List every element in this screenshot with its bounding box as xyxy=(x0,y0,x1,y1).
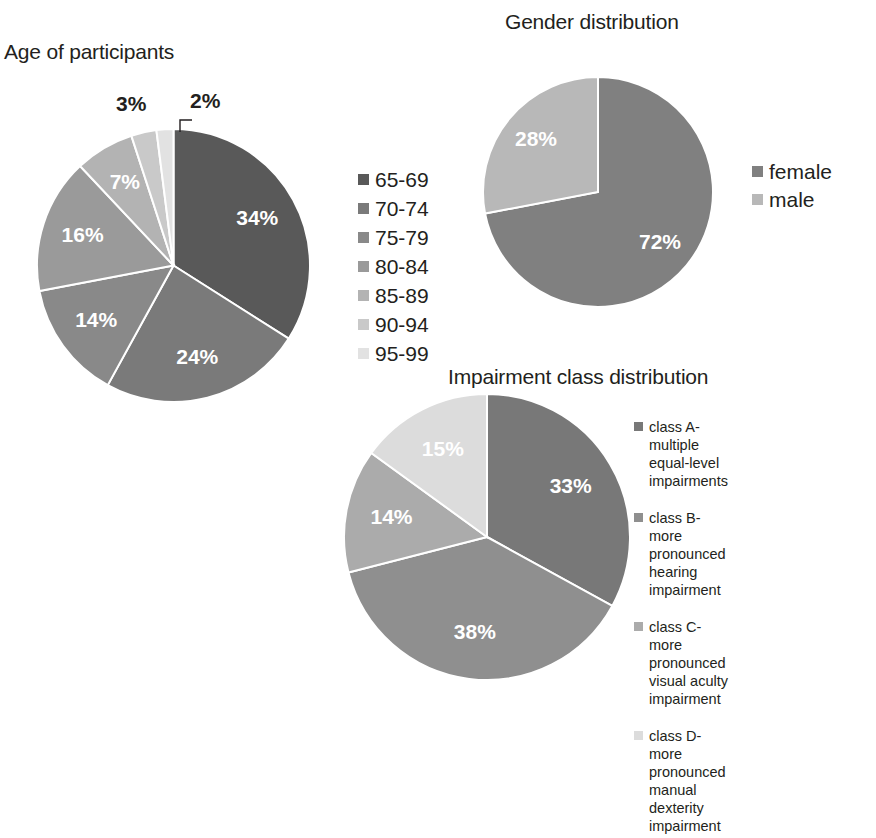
legend-item-label: 75-79 xyxy=(375,226,429,250)
legend-item-label: class C-more pronounced visual aculty im… xyxy=(649,618,728,708)
legend-swatch-icon xyxy=(358,174,369,185)
impairment-legend-item[interactable]: class D-more pronounced manual dexterity… xyxy=(634,727,728,835)
pie-slice-label: 15% xyxy=(422,437,464,460)
impairment-legend-item[interactable]: class A-multiple equal-level impairments xyxy=(634,418,728,490)
pie-slice-label: 14% xyxy=(370,505,412,528)
legend-swatch-icon xyxy=(634,513,643,522)
pie-slice-label: 16% xyxy=(62,223,104,246)
age-chart-title: Age of participants xyxy=(4,40,174,64)
impairment-legend: class A-multiple equal-level impairments… xyxy=(634,418,728,838)
age-pie: 34%24%14%16%7% xyxy=(36,128,311,403)
gender-pie: 72%28% xyxy=(482,76,714,308)
age-slice-label-90-94: 3% xyxy=(116,92,146,116)
legend-item-label: 95-99 xyxy=(375,342,429,366)
age-legend-item[interactable]: 95-99 xyxy=(358,342,429,366)
legend-swatch-icon xyxy=(358,261,369,272)
age-legend-item[interactable]: 80-84 xyxy=(358,255,429,279)
legend-item-label: 90-94 xyxy=(375,313,429,337)
legend-item-label: 65-69 xyxy=(375,168,429,192)
pie-slice-label: 72% xyxy=(639,230,681,253)
gender-legend: femalemale xyxy=(752,160,832,216)
legend-item-label: class A-multiple equal-level impairments xyxy=(649,418,728,490)
age-legend-item[interactable]: 75-79 xyxy=(358,226,429,250)
legend-swatch-icon xyxy=(752,166,763,177)
legend-item-label: class B-more pronounced hearing impairme… xyxy=(649,509,728,599)
pie-slice-label: 33% xyxy=(550,474,592,497)
legend-item-label: 80-84 xyxy=(375,255,429,279)
legend-swatch-icon xyxy=(634,622,643,631)
legend-item-label: 85-89 xyxy=(375,284,429,308)
legend-swatch-icon xyxy=(358,232,369,243)
gender-chart-title: Gender distribution xyxy=(505,10,679,34)
impairment-legend-item[interactable]: class B-more pronounced hearing impairme… xyxy=(634,509,728,599)
legend-item-label: female xyxy=(769,160,832,184)
legend-swatch-icon xyxy=(358,348,369,359)
legend-swatch-icon xyxy=(634,422,643,431)
pie-slice-label: 34% xyxy=(236,206,278,229)
legend-item-label: 70-74 xyxy=(375,197,429,221)
legend-swatch-icon xyxy=(358,290,369,301)
legend-item-label: class D-more pronounced manual dexterity… xyxy=(649,727,728,835)
impairment-legend-item[interactable]: class C-more pronounced visual aculty im… xyxy=(634,618,728,708)
gender-legend-item[interactable]: male xyxy=(752,188,832,212)
legend-item-label: male xyxy=(769,188,815,212)
pie-slice-label: 38% xyxy=(454,620,496,643)
legend-swatch-icon xyxy=(752,194,763,205)
pie-slice-label: 24% xyxy=(176,345,218,368)
legend-swatch-icon xyxy=(358,203,369,214)
age-legend-item[interactable]: 70-74 xyxy=(358,197,429,221)
impairment-pie: 33%38%14%15% xyxy=(343,393,631,681)
legend-swatch-icon xyxy=(634,731,643,740)
age-legend-item[interactable]: 65-69 xyxy=(358,168,429,192)
age-legend-item[interactable]: 90-94 xyxy=(358,313,429,337)
pie-slice-label: 28% xyxy=(515,127,557,150)
impairment-chart-title: Impairment class distribution xyxy=(448,365,708,389)
age-leader-line xyxy=(178,110,208,140)
legend-swatch-icon xyxy=(358,319,369,330)
pie-slice-label: 7% xyxy=(110,170,141,193)
age-legend: 65-6970-7475-7980-8485-8990-9495-99 xyxy=(358,168,429,371)
age-legend-item[interactable]: 85-89 xyxy=(358,284,429,308)
pie-slice-label: 14% xyxy=(75,308,117,331)
gender-legend-item[interactable]: female xyxy=(752,160,832,184)
